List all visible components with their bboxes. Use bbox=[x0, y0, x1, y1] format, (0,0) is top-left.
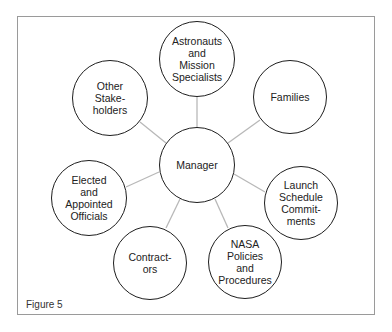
center-node-label: Manager bbox=[176, 159, 217, 171]
edge-manager-other-stakeholders bbox=[140, 122, 166, 143]
edge-manager-launch-schedule bbox=[234, 174, 265, 192]
node-nasa-policies: NASA Policies and Procedures bbox=[208, 225, 282, 299]
node-other-stakeholders: Other Stake- holders bbox=[72, 60, 148, 136]
node-label: Families bbox=[270, 91, 309, 103]
node-elected-officials: Elected and Appointed Officials bbox=[51, 160, 127, 236]
node-manager: Manager bbox=[159, 127, 235, 203]
edge-manager-nasa-policies bbox=[215, 199, 228, 228]
node-launch-schedule: Launch Schedule Commit- ments bbox=[264, 166, 338, 240]
node-contractors: Contract- ors bbox=[113, 226, 187, 300]
node-label: NASA Policies and Procedures bbox=[218, 238, 272, 286]
node-label: Elected and Appointed Officials bbox=[65, 174, 112, 222]
node-label: Other Stake- holders bbox=[93, 80, 127, 116]
node-label: Contract- ors bbox=[128, 251, 171, 275]
node-label: Launch Schedule Commit- ments bbox=[279, 179, 323, 227]
node-astronauts: Astronauts and Mission Specialists bbox=[159, 21, 235, 97]
node-families: Families bbox=[253, 60, 327, 134]
figure-caption: Figure 5 bbox=[26, 299, 63, 310]
node-label: Astronauts and Mission Specialists bbox=[172, 35, 222, 83]
edge-manager-contractors bbox=[166, 199, 180, 228]
edge-manager-elected-officials bbox=[126, 172, 159, 187]
edge-manager-families bbox=[228, 120, 260, 143]
